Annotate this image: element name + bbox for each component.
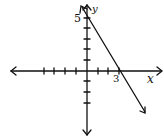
y-intercept-label: 5 [74,13,81,24]
graph-canvas: 5 y 3 x [0,0,164,139]
x-axis-label: x [147,73,154,85]
y-axis-label: y [92,4,98,14]
x-intercept-label: 3 [113,74,119,84]
plotted-line [82,7,145,112]
coordinate-plane [0,0,164,139]
